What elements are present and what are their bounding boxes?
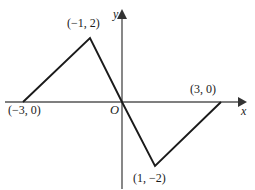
y-axis-arrowhead: [117, 9, 127, 19]
y-axis-label: y: [113, 8, 118, 20]
graph-figure: (−3, 0) (−1, 2) (1, −2) (3, 0) O y x: [0, 0, 255, 190]
origin-label: O: [110, 104, 119, 117]
point-label-peak: (−1, 2): [67, 17, 100, 29]
point-label-right-intercept: (3, 0): [190, 83, 216, 95]
point-label-trough: (1, −2): [133, 172, 166, 184]
point-label-left-intercept: (−3, 0): [8, 104, 41, 116]
graph-canvas: [0, 0, 255, 190]
x-axis-label: x: [241, 105, 246, 117]
